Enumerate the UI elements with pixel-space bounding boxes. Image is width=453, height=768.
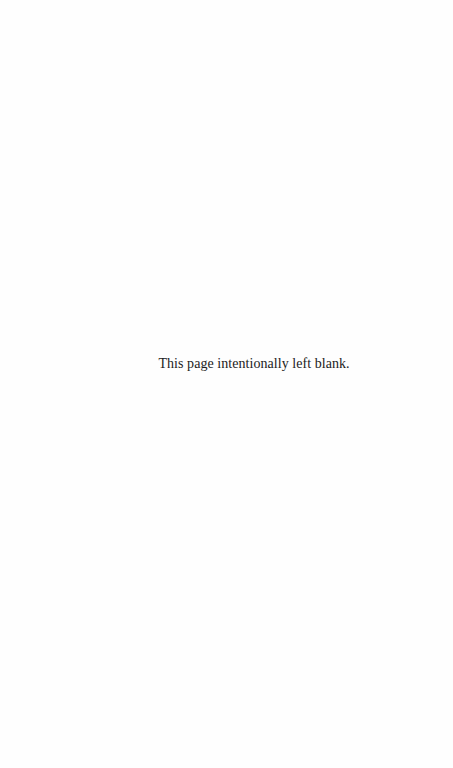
blank-page-notice: This page intentionally left blank. [0,356,453,372]
document-page: This page intentionally left blank. [0,0,453,768]
